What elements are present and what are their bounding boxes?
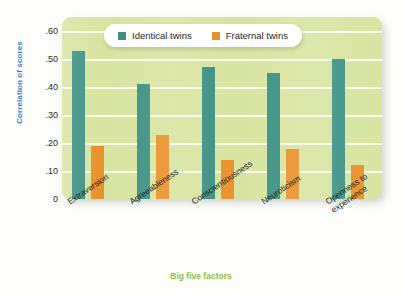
y-axis-tick-label: .40: [32, 82, 58, 92]
y-axis-tick-label: .20: [32, 138, 58, 148]
y-axis-tick-label: .60: [32, 26, 58, 36]
y-axis-tick-label: 0: [32, 194, 58, 204]
legend-label-fraternal-twins: Fraternal twins: [226, 30, 288, 41]
bar-identical-twins: [267, 73, 280, 199]
bar-identical-twins: [72, 51, 85, 199]
chart-legend: Identical twins Fraternal twins: [104, 24, 302, 47]
y-axis-tick-label: .30: [32, 110, 58, 120]
bar-identical-twins: [332, 59, 345, 199]
plot-area: Identical twins Fraternal twins: [62, 17, 382, 199]
y-axis-tick-labels: .60.50.40.30.20.100: [28, 17, 58, 199]
legend-label-identical-twins: Identical twins: [132, 30, 192, 41]
legend-entry-fraternal-twins: Fraternal twins: [212, 30, 288, 41]
twin-study-bar-chart-figure: Correlation of scores .60.50.40.30.20.10…: [0, 0, 402, 295]
legend-swatch-identical-twins-icon: [118, 32, 126, 40]
bar-identical-twins: [202, 67, 215, 199]
x-axis-tick-labels: ExtraversionAgreeablenessConscientiousne…: [62, 199, 382, 269]
y-axis-tick-label: .10: [32, 166, 58, 176]
bar-identical-twins: [137, 84, 150, 199]
y-axis-tick-label: .50: [32, 54, 58, 64]
legend-swatch-fraternal-twins-icon: [212, 32, 220, 40]
legend-entry-identical-twins: Identical twins: [118, 30, 192, 41]
y-axis-title: Correlation of scores: [15, 28, 24, 138]
x-axis-title: Big five factors: [0, 271, 402, 281]
